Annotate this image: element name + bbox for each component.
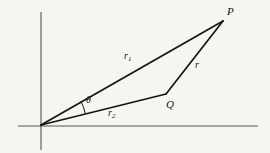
segment-label-r1: r1 bbox=[124, 51, 131, 61]
diagram-canvas bbox=[0, 0, 270, 153]
geometry-figure: P Q r1 r2 r θ bbox=[0, 0, 270, 153]
segment-label-r-base: r bbox=[195, 59, 199, 70]
segment-r1 bbox=[41, 21, 223, 125]
segment-r2 bbox=[41, 94, 166, 125]
segment-label-r: r bbox=[195, 60, 199, 70]
segment-label-r2: r2 bbox=[108, 108, 115, 118]
segment-label-r1-subscript: 1 bbox=[128, 55, 132, 63]
segment-r bbox=[166, 21, 223, 94]
angle-label-theta: θ bbox=[86, 95, 91, 105]
angle-arc-theta bbox=[81, 101, 85, 114]
point-label-p: P bbox=[227, 6, 234, 17]
point-label-q: Q bbox=[166, 99, 174, 110]
segment-label-r2-subscript: 2 bbox=[112, 112, 116, 120]
